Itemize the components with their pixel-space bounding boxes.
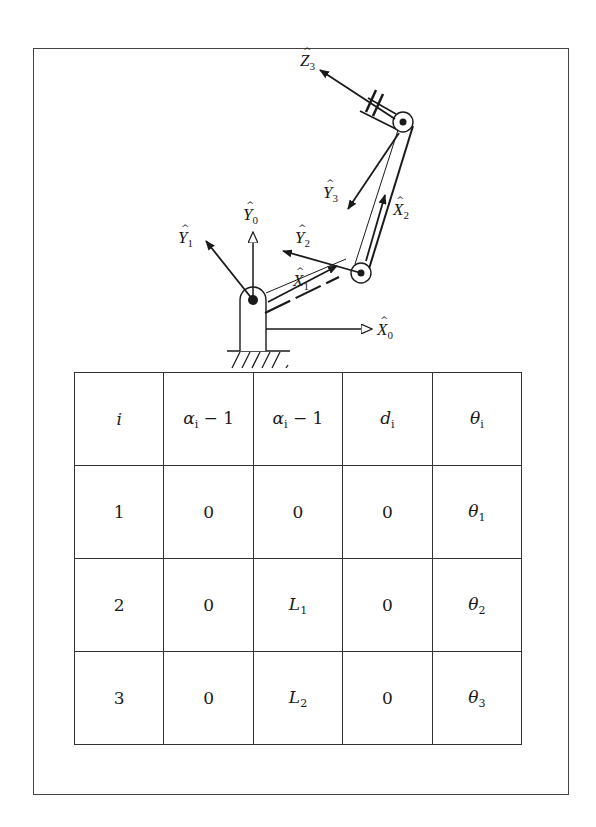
table-header-row: i αi − 1 αi − 1 di θi — [75, 373, 522, 466]
joint-3 — [393, 112, 413, 132]
header-cell: di — [343, 373, 432, 466]
table-cell: L2 — [253, 652, 342, 745]
svg-text:^: ^ — [380, 314, 388, 325]
svg-text:^: ^ — [326, 177, 334, 188]
table-cell: θ2 — [432, 559, 521, 652]
table-cell: 0 — [343, 652, 432, 745]
header-cell: i — [75, 373, 164, 466]
table-cell: L1 — [253, 559, 342, 652]
y1-axis-arrow — [206, 241, 253, 300]
table-cell: 2 — [75, 559, 164, 652]
table-cell: 0 — [164, 559, 253, 652]
table-cell: 0 — [253, 466, 342, 559]
table-row: 3 0 L2 0 θ3 — [75, 652, 522, 745]
header-cell: αi − 1 — [253, 373, 342, 466]
table-row: 1 0 0 0 θ1 — [75, 466, 522, 559]
table-cell: θ3 — [432, 652, 521, 745]
table-cell: 1 — [75, 466, 164, 559]
table-cell: θ1 — [432, 466, 521, 559]
table-row: 2 0 L1 0 θ2 — [75, 559, 522, 652]
table-cell: 0 — [343, 466, 432, 559]
svg-text:^: ^ — [296, 265, 304, 276]
table-cell: 0 — [343, 559, 432, 652]
header-cell: θi — [432, 373, 521, 466]
header-cell: αi − 1 — [164, 373, 253, 466]
svg-text:^: ^ — [396, 194, 404, 205]
end-effector-gripper — [366, 90, 383, 116]
axis-labels: Z3 Y3 X2 Y2 X1 Y1 Y0 X0 ^ ^ ^ ^ ^ ^ ^ ^ — [178, 45, 409, 341]
table-cell: 3 — [75, 652, 164, 745]
svg-text:^: ^ — [181, 222, 189, 233]
table-cell: 0 — [164, 652, 253, 745]
dh-parameter-table: i αi − 1 αi − 1 di θi 1 0 0 0 θ1 2 0 L1 … — [74, 372, 522, 745]
svg-text:^: ^ — [298, 222, 306, 233]
table-cell: 0 — [164, 466, 253, 559]
ground-hatch — [227, 351, 290, 368]
svg-text:^: ^ — [246, 199, 254, 210]
robot-arm-diagram: Z3 Y3 X2 Y2 X1 Y1 Y0 X0 ^ ^ ^ ^ ^ ^ ^ ^ — [0, 0, 596, 370]
svg-text:^: ^ — [303, 45, 311, 56]
